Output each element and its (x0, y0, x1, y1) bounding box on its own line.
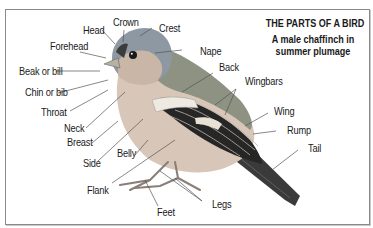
diagram-title: THE PARTS OF A BIRD (266, 17, 361, 29)
label-head: Head (83, 24, 104, 36)
label-throat: Throat (41, 106, 67, 118)
label-breast: Breast (67, 136, 93, 148)
label-back: Back (219, 61, 239, 73)
diagram-subtitle-line1: A male chaffinch in (266, 33, 361, 45)
label-crown: Crown (113, 16, 139, 28)
label-nape: Nape (200, 45, 221, 57)
label-crest: Crest (159, 22, 180, 34)
label-forehead: Forehead (50, 40, 88, 52)
label-flank: Flank (87, 184, 109, 196)
label-neck: Neck (64, 122, 84, 134)
label-beak: Beak or bill (19, 65, 63, 77)
label-feet: Feet (157, 206, 175, 218)
label-belly: Belly (117, 147, 136, 159)
diagram-subtitle-line2: summer plumage (266, 45, 361, 57)
label-rump: Rump (287, 124, 311, 136)
label-tail: Tail (308, 142, 321, 154)
label-wing: Wing (274, 105, 294, 117)
label-chin: Chin or bib (25, 86, 68, 98)
label-wingbars: Wingbars (245, 75, 283, 87)
label-side: Side (83, 157, 101, 169)
label-legs: Legs (212, 198, 231, 210)
